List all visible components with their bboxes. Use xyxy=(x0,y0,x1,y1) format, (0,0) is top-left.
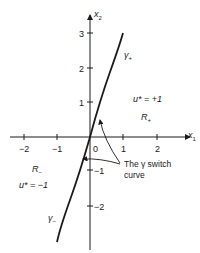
r-minus-control-label: u* = −1 xyxy=(19,180,48,190)
r-plus-control-label: u* = +1 xyxy=(133,94,162,104)
y-tick-label: −2 xyxy=(94,202,104,212)
x-tick-label: −1 xyxy=(52,144,62,154)
y-tick-label: 3 xyxy=(79,29,84,39)
origin-label: 0 xyxy=(93,144,98,154)
y-axis-label: x2 xyxy=(93,9,103,21)
x-tick-label: −2 xyxy=(19,144,29,154)
x-tick-label: 1 xyxy=(121,144,126,154)
annotation-arrow-upper xyxy=(100,120,120,163)
switch-curve-diagram: −2 −1 1 2 0 3 2 1 −1 −2 x1 x2 γ+ γ− u* =… xyxy=(0,0,200,253)
y-tick-label: 1 xyxy=(79,98,84,108)
gamma-minus-label: γ− xyxy=(48,213,57,224)
annotation-line-2: curve xyxy=(124,170,145,180)
r-plus-label: R+ xyxy=(141,112,152,123)
gamma-plus-curve xyxy=(90,33,123,137)
annotation-arrow-lower xyxy=(83,159,120,164)
y-tick-label: 2 xyxy=(79,64,84,74)
annotation-line-1: The γ switch xyxy=(124,159,172,169)
gamma-plus-label: γ+ xyxy=(124,50,133,61)
x-tick-label: 2 xyxy=(155,144,160,154)
y-tick-label: −1 xyxy=(94,166,104,176)
r-minus-label: R− xyxy=(32,164,43,175)
x-axis-label: x1 xyxy=(187,130,197,142)
